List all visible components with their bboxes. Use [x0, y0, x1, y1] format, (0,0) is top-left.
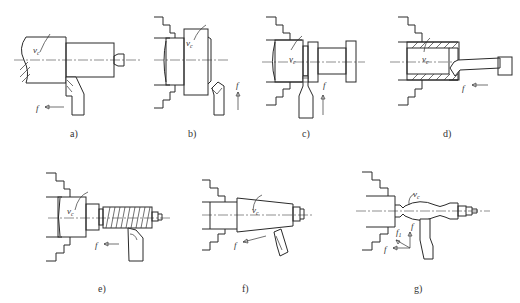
feed-label-a: f	[36, 103, 40, 113]
feed-label-f: f	[234, 240, 238, 250]
feed-label-g-vertical: f	[411, 221, 415, 231]
vc-label-c: vc	[289, 54, 296, 65]
feed-label-e: f	[95, 240, 99, 250]
panel-a: vc f a)	[14, 34, 142, 140]
vc-label-b: vc	[186, 38, 193, 49]
panel-c: vc f c)	[262, 17, 365, 140]
panel-g: vc f1 f f g)	[356, 172, 490, 295]
panel-label-a: a)	[70, 128, 78, 140]
panel-label-g: g)	[414, 283, 422, 295]
vc-label-g: vc	[413, 189, 420, 200]
vc-label-d: vc	[422, 54, 429, 65]
turning-operations-figure: vc f a) vc f b)	[0, 0, 520, 303]
panel-label-b: b)	[188, 128, 196, 140]
feed-label-g-f1: f1	[396, 227, 402, 238]
panel-label-d: d)	[443, 128, 451, 140]
panel-e: vc f e)	[46, 173, 172, 295]
feed-label-b: f	[236, 80, 240, 90]
panel-b: vc f b)	[154, 17, 240, 140]
feed-label-g-horizontal: f	[384, 244, 388, 254]
vc-label-e: vc	[67, 206, 74, 217]
panel-label-f: f)	[242, 283, 249, 295]
feed-label-c: f	[323, 80, 327, 90]
vc-label-f: vc	[252, 205, 259, 216]
panel-label-c: c)	[302, 128, 310, 140]
panel-label-e: e)	[98, 283, 106, 295]
panel-d: vc f d)	[390, 17, 512, 140]
feed-label-d: f	[462, 83, 466, 93]
panel-f: vc f f)	[202, 180, 313, 295]
vc-label-a: vc	[33, 45, 40, 56]
